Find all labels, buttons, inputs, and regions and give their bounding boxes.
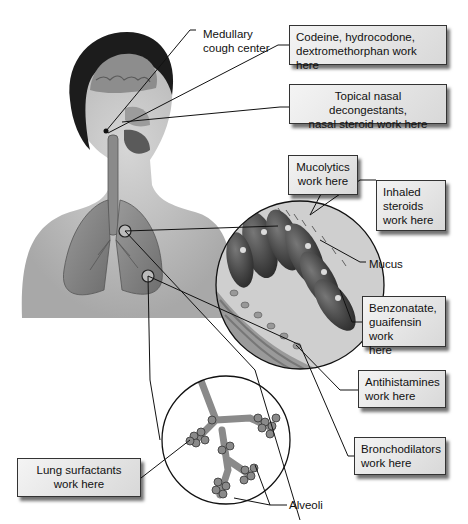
respiratory-drug-diagram: Medullary cough center Codeine, hydrocod… [0, 0, 468, 524]
antihistamines-box: Antihistamines work here [358, 370, 446, 408]
body-figure [22, 32, 233, 318]
box-line: dextromethorphan work here [296, 44, 440, 72]
bronchial-inset [210, 195, 390, 375]
label-line: cough center [203, 41, 270, 55]
alveoli-label: Alveoli [289, 498, 323, 512]
box-line: work here [383, 213, 439, 227]
box-line: steroids [383, 199, 439, 213]
box-line: Bronchodilators [361, 442, 439, 456]
label-line: Medullary [203, 27, 270, 41]
codeine-box: Codeine, hydrocodone, dextromethorphan w… [289, 25, 447, 65]
box-line: here [369, 343, 439, 357]
topical-nasal-box: Topical nasal decongestants, nasal stero… [289, 84, 447, 124]
bronchodilators-box: Bronchodilators work here [354, 437, 446, 475]
box-line: Topical nasal decongestants, [296, 89, 440, 117]
box-line: Mucolytics [295, 160, 351, 174]
box-line: Antihistamines [365, 375, 439, 389]
box-line: Benzonatate, [369, 301, 439, 315]
mucus-label: Mucus [369, 257, 403, 271]
medullary-cough-center-label: Medullary cough center [203, 27, 270, 55]
box-line: work here [365, 389, 439, 403]
box-line: guaifensin work [369, 315, 439, 343]
benzonatate-box: Benzonatate, guaifensin work here [362, 296, 446, 347]
lung-surfactants-box: Lung surfactants work here [17, 458, 141, 497]
inhaled-steroids-box: Inhaled steroids work here [376, 180, 446, 231]
box-line: Inhaled [383, 185, 439, 199]
box-line: nasal steroid work here [296, 117, 440, 131]
box-line: Codeine, hydrocodone, [296, 30, 440, 44]
box-line: work here [295, 174, 351, 188]
box-line: Lung surfactants [24, 463, 134, 477]
box-line: work here [361, 456, 439, 470]
mucolytics-box: Mucolytics work here [288, 155, 358, 195]
box-line: work here [24, 477, 134, 491]
